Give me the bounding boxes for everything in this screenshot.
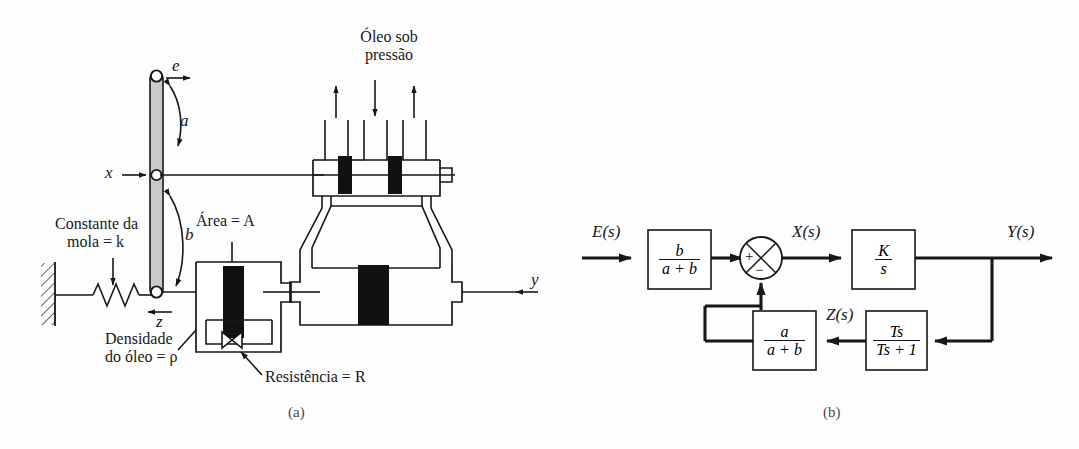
lever-arm-b-label: b: [185, 225, 194, 244]
signal-label-x: X(s): [792, 222, 820, 241]
area-label: Área = A: [196, 212, 255, 230]
signal-label-output: Y(s): [1007, 222, 1034, 241]
summing-junction-minus-sign: −: [755, 262, 763, 279]
block-washout[interactable]: Ts Ts + 1: [866, 311, 927, 370]
signal-label-input: E(s): [592, 222, 620, 241]
power-cylinder-icon: [263, 264, 516, 325]
spool-valve-icon: [313, 120, 455, 196]
panel-b-caption: (b): [823, 404, 841, 421]
panel-a-caption: (a): [288, 404, 305, 421]
block-integrator[interactable]: K s: [852, 230, 915, 289]
fraction-washout: Ts Ts + 1: [873, 323, 919, 359]
spring-constant-label: Constante da mola = k: [55, 215, 185, 251]
block-gain-feedback[interactable]: a a + b: [753, 311, 816, 370]
resistance-label: Resistência = R: [265, 368, 366, 386]
lever-bar-icon: [150, 72, 163, 296]
fraction-gain-feedback: a a + b: [764, 323, 805, 359]
fraction-gain-forward: b a + b: [659, 242, 700, 278]
lever-arm-a-label: a: [180, 111, 189, 130]
valve-to-cylinder-passages: [300, 196, 452, 268]
signal-label-z: Z(s): [826, 305, 853, 324]
fraction-integrator: K s: [875, 242, 892, 278]
block-gain-forward[interactable]: b a + b: [648, 230, 711, 289]
oil-density-label: Densidade do óleo = ρ: [105, 330, 245, 366]
spring-coil-icon: [55, 284, 153, 306]
arrow-output: [915, 258, 1052, 341]
displacement-x-label: x: [105, 163, 113, 182]
hatched-wall-icon: [41, 262, 55, 326]
figure-canvas: Óleo sob pressão Constante da mola = k Á…: [0, 0, 1079, 449]
displacement-e-label: e: [172, 56, 180, 75]
displacement-y-label: y: [531, 270, 539, 289]
displacement-z-label: z: [156, 312, 163, 331]
summing-junction-plus-sign: +: [745, 248, 753, 265]
oil-supply-label: Óleo sob pressão: [330, 28, 448, 64]
